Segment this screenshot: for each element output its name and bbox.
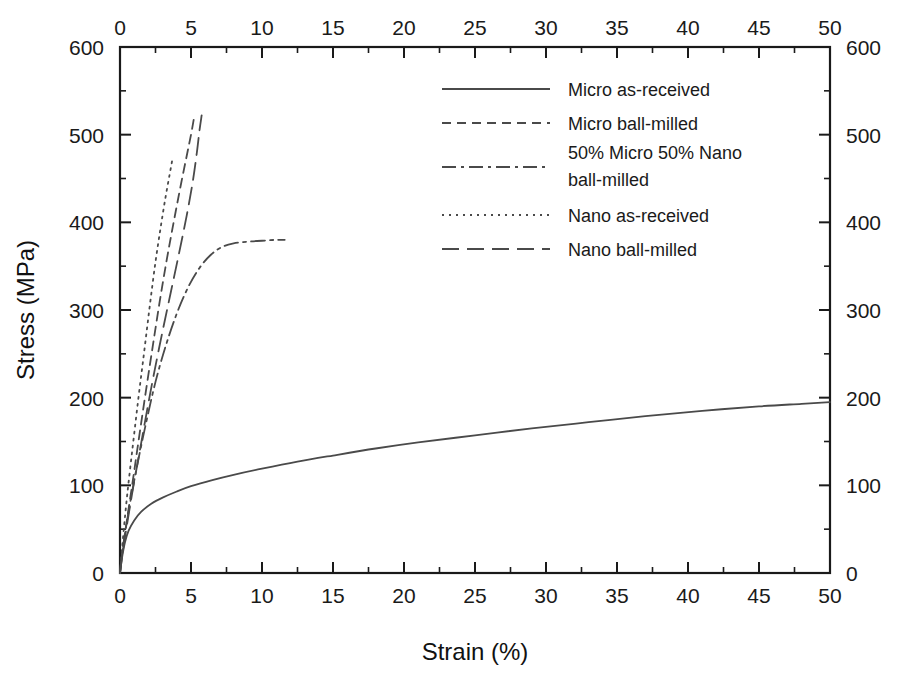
- x-axis-title: Strain (%): [422, 638, 529, 665]
- x-tick-label-top: 10: [250, 16, 273, 39]
- legend-label: Micro as-received: [568, 80, 710, 100]
- x-tick-label: 40: [676, 584, 699, 607]
- x-tick-label: 10: [250, 584, 273, 607]
- y-tick-label: 100: [69, 474, 104, 497]
- y-tick-label-right: 300: [846, 299, 881, 322]
- x-tick-label-top: 0: [114, 16, 126, 39]
- x-tick-label-top: 35: [605, 16, 628, 39]
- x-tick-label-top: 45: [747, 16, 770, 39]
- y-tick-label-right: 400: [846, 211, 881, 234]
- curve-nano-ball-milled: [120, 115, 202, 573]
- stress-strain-chart: 0055101015152020252530303535404045455050…: [0, 0, 905, 686]
- y-tick-label: 400: [69, 211, 104, 234]
- legend-label: Nano ball-milled: [568, 240, 697, 260]
- y-tick-label-right: 100: [846, 474, 881, 497]
- x-tick-label: 30: [534, 584, 557, 607]
- stress-strain-figure: 0055101015152020252530303535404045455050…: [0, 0, 905, 686]
- axis-tick-labels: 0055101015152020252530303535404045455050…: [69, 16, 881, 607]
- legend-label: Micro ball-milled: [568, 114, 698, 134]
- y-axis-title: Stress (MPa): [12, 240, 39, 380]
- data-curves: [120, 115, 830, 573]
- legend-label: Nano as-received: [568, 206, 709, 226]
- y-tick-label: 300: [69, 299, 104, 322]
- chart-legend: Micro as-receivedMicro ball-milled50% Mi…: [442, 80, 742, 260]
- x-tick-label: 20: [392, 584, 415, 607]
- y-tick-label: 200: [69, 387, 104, 410]
- x-tick-label-top: 25: [463, 16, 486, 39]
- x-tick-label-top: 30: [534, 16, 557, 39]
- y-tick-label: 600: [69, 36, 104, 59]
- x-tick-label: 50: [818, 584, 841, 607]
- x-tick-label: 0: [114, 584, 126, 607]
- y-tick-label-right: 200: [846, 387, 881, 410]
- axis-ticks: [120, 47, 830, 573]
- y-tick-label-right: 500: [846, 124, 881, 147]
- x-tick-label: 25: [463, 584, 486, 607]
- x-tick-label: 5: [185, 584, 197, 607]
- x-tick-label: 15: [321, 584, 344, 607]
- x-tick-label-top: 50: [818, 16, 841, 39]
- legend-label-line2: ball-milled: [568, 170, 649, 190]
- curve-micro-as-received: [120, 402, 830, 573]
- x-tick-label-top: 20: [392, 16, 415, 39]
- y-tick-label-right: 0: [846, 562, 858, 585]
- curve-micro-ball-milled: [120, 119, 194, 573]
- y-tick-label: 500: [69, 124, 104, 147]
- y-tick-label-right: 600: [846, 36, 881, 59]
- y-tick-label: 0: [92, 562, 104, 585]
- x-tick-label: 45: [747, 584, 770, 607]
- x-tick-label-top: 5: [185, 16, 197, 39]
- x-tick-label-top: 40: [676, 16, 699, 39]
- plot-frame: [120, 47, 830, 573]
- x-tick-label: 35: [605, 584, 628, 607]
- legend-label: 50% Micro 50% Nano: [568, 143, 742, 163]
- x-tick-label-top: 15: [321, 16, 344, 39]
- curve-50-micro-50-nano-ball-milled: [120, 240, 285, 573]
